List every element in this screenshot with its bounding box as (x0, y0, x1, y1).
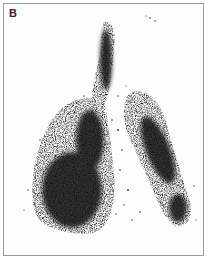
scintigram-image (0, 0, 209, 260)
